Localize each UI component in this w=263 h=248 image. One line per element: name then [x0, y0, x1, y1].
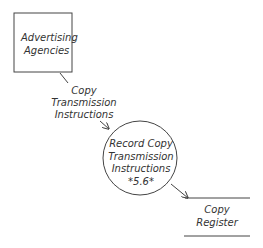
flow-line-segment-1 [60, 73, 68, 83]
dfd-canvas: Advertising Agencies Copy Transmission I… [0, 0, 263, 248]
data-store-label-line-2: Register [196, 217, 239, 228]
arrow-icon [171, 184, 188, 198]
data-store-label-line-1: Copy [204, 204, 230, 215]
entity-label-line-1: Advertising [20, 32, 78, 43]
process-label-line-1: Record Copy [109, 138, 174, 149]
flow-label-line-3: Instructions [55, 109, 114, 120]
entity-label-line-2: Agencies [23, 45, 69, 56]
process-label-line-3: Instructions [112, 163, 171, 174]
arrow-icon [100, 121, 109, 129]
process-label-line-2: Transmission [108, 151, 173, 162]
data-store-copy-register[interactable]: Copy Register [184, 198, 250, 236]
data-flow-copy-transmission-instructions[interactable]: Copy Transmission Instructions [51, 73, 116, 129]
flow-label-line-2: Transmission [51, 97, 116, 108]
process-id: *5.6* [128, 176, 154, 187]
flow-label-line-1: Copy [71, 85, 97, 96]
process-record-copy-transmission-instructions[interactable]: Record Copy Transmission Instructions *5… [103, 121, 177, 195]
external-entity-advertising-agencies[interactable]: Advertising Agencies [14, 13, 78, 72]
